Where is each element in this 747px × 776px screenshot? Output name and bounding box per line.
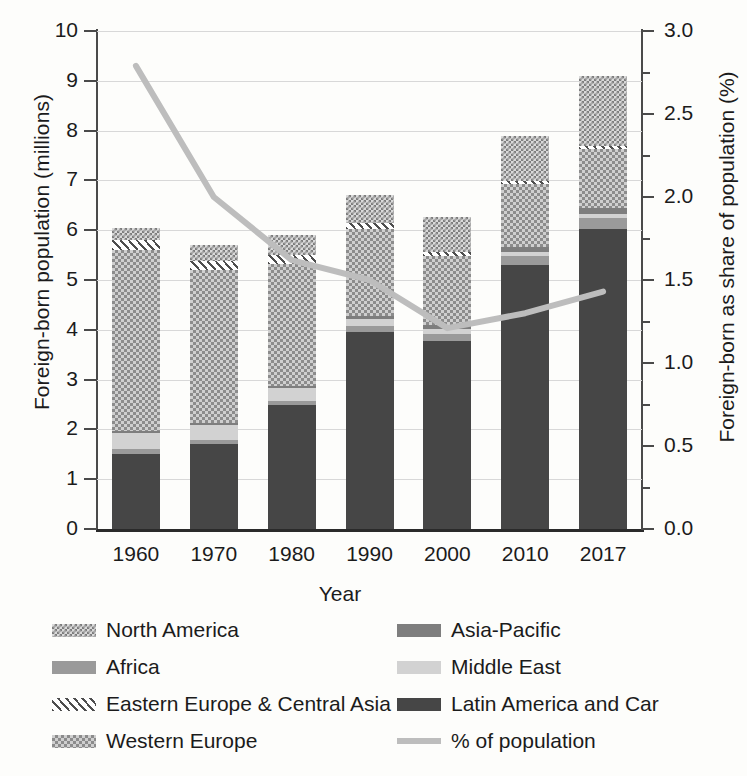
legend-swatch-icon	[397, 661, 441, 674]
bar-segment	[112, 431, 160, 433]
y-axis-left-tick-label: 6	[22, 218, 78, 239]
bar-segment	[579, 214, 627, 217]
bar-segment	[346, 319, 394, 326]
y-axis-right-tick-label: 1.0	[664, 351, 724, 372]
y-axis-right-tick-label: 0.5	[664, 434, 724, 455]
bar-segment	[112, 250, 160, 431]
y-axis-right-tick-label: 0.0	[664, 517, 724, 538]
bar-segment	[579, 208, 627, 214]
tick-mark	[641, 528, 654, 530]
bar-segment	[501, 265, 549, 529]
legend-label: Western Europe	[106, 729, 257, 753]
bar-1990	[346, 31, 394, 529]
bar-1960	[112, 31, 160, 529]
bar-segment	[501, 184, 549, 247]
legend-item[interactable]: Middle East	[397, 652, 561, 682]
bar-segment	[268, 255, 316, 263]
bar-segment	[423, 341, 471, 529]
y-axis-left-tick-label: 1	[22, 467, 78, 488]
legend-label: Eastern Europe & Central Asia	[106, 692, 391, 716]
bar-segment	[346, 332, 394, 529]
legend-label: Asia-Pacific	[451, 618, 561, 642]
legend-item[interactable]: Western Europe	[52, 726, 257, 756]
bar-segment	[423, 334, 471, 341]
bar-segment	[190, 444, 238, 529]
bar-segment	[112, 240, 160, 250]
tick-mark	[641, 238, 650, 240]
legend-item[interactable]: Africa	[52, 652, 160, 682]
y-axis-left-tick-label: 9	[22, 69, 78, 90]
bar-1970	[190, 31, 238, 529]
legend-item[interactable]: Latin America and Car	[397, 689, 659, 719]
legend-item[interactable]: Eastern Europe & Central Asia	[52, 689, 391, 719]
bar-segment	[268, 388, 316, 400]
y-axis-right-tick-label: 3.0	[664, 19, 724, 40]
tick-mark	[84, 30, 97, 32]
y-axis-right-tick-label: 2.5	[664, 102, 724, 123]
bar-segment	[579, 146, 627, 148]
y-axis-left-tick-label: 7	[22, 168, 78, 189]
tick-mark	[641, 487, 650, 489]
bar-segment	[190, 270, 238, 423]
tick-mark	[641, 196, 654, 198]
tick-mark	[641, 155, 650, 157]
x-axis-tick-label: 1960	[91, 542, 181, 566]
tick-mark	[641, 72, 650, 74]
bar-2000	[423, 31, 471, 529]
bar-segment	[346, 326, 394, 332]
bar-segment	[190, 261, 238, 270]
bar-segment	[501, 136, 549, 181]
bar-segment	[579, 218, 627, 229]
tick-mark	[641, 113, 654, 115]
legend-item[interactable]: Asia-Pacific	[397, 615, 561, 645]
bar-segment	[268, 264, 316, 386]
x-axis-tick-label: 2010	[480, 542, 570, 566]
tick-mark	[641, 362, 654, 364]
tick-mark	[84, 279, 97, 281]
chart-canvas: Foreign-born population (millions) Forei…	[0, 0, 747, 776]
bar-segment	[346, 223, 394, 229]
tick-mark	[84, 428, 97, 430]
bar-segment	[190, 423, 238, 425]
y-axis-right-tick-label: 1.5	[664, 268, 724, 289]
bar-2010	[501, 31, 549, 529]
bar-segment	[268, 235, 316, 255]
legend-swatch-icon	[397, 624, 441, 637]
legend-swatch-icon	[52, 624, 96, 637]
legend-swatch-icon	[52, 735, 96, 748]
legend-label: North America	[106, 618, 239, 642]
y-axis-right-title: Foreign-born as share of population (%)	[715, 22, 739, 492]
bar-2017	[579, 31, 627, 529]
legend-label: Latin America and Car	[451, 692, 659, 716]
x-axis-tick-label: 1990	[325, 542, 415, 566]
tick-mark	[84, 80, 97, 82]
x-axis-tick-label: 2000	[402, 542, 492, 566]
bar-segment	[268, 401, 316, 406]
legend-item[interactable]: % of population	[397, 726, 596, 756]
bar-segment	[423, 252, 471, 256]
bar-segment	[346, 316, 394, 319]
y-axis-left-title: Foreign-born population (millions)	[30, 42, 54, 462]
bar-segment	[346, 229, 394, 316]
tick-mark	[84, 229, 97, 231]
legend-item[interactable]: North America	[52, 615, 239, 645]
bar-segment	[579, 229, 627, 529]
tick-mark	[84, 478, 97, 480]
bar-segment	[501, 247, 549, 252]
y-axis-left-tick-label: 10	[22, 19, 78, 40]
x-axis-tick-label: 1980	[247, 542, 337, 566]
legend-swatch-icon	[52, 698, 96, 711]
x-axis-tick-label: 2017	[558, 542, 648, 566]
y-axis-left-tick-label: 8	[22, 119, 78, 140]
y-axis-left-tick-label: 3	[22, 368, 78, 389]
legend-label: Africa	[106, 655, 160, 679]
tick-mark	[84, 130, 97, 132]
y-axis-left-tick-label: 5	[22, 268, 78, 289]
bar-segment	[112, 454, 160, 529]
legend-label: Middle East	[451, 655, 561, 679]
bar-segment	[190, 425, 238, 440]
bar-segment	[268, 386, 316, 388]
bar-segment	[190, 440, 238, 444]
tick-mark	[84, 179, 97, 181]
bar-segment	[423, 325, 471, 329]
